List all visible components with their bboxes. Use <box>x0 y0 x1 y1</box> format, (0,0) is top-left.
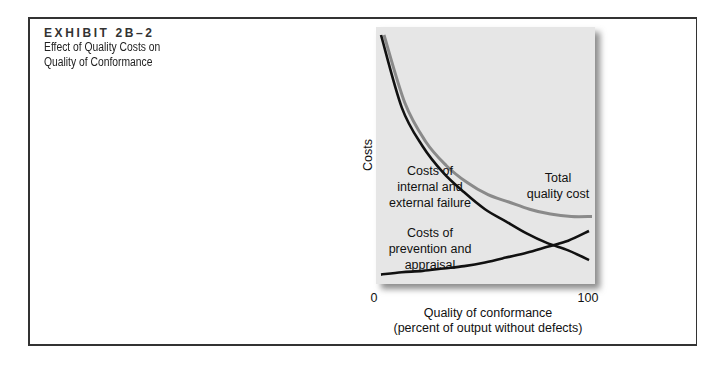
x-tick-100: 100 <box>578 291 599 305</box>
prevention-label-line-3: appraisal <box>405 258 456 272</box>
prevention-label-line-1: Costs of <box>407 226 453 240</box>
x-axis-sublabel: (percent of output without defects) <box>394 321 583 335</box>
failure-label-line-3: external failure <box>389 196 471 210</box>
total-label-line-1: Total <box>545 171 571 185</box>
x-tick-0: 0 <box>371 291 378 305</box>
failure-label-line-2: internal and <box>397 180 462 194</box>
failure-label-line-1: Costs of <box>407 164 453 178</box>
quality-cost-chart: Costs of internal and external failure C… <box>0 0 725 367</box>
x-axis-label: Quality of conformance <box>424 306 553 320</box>
y-axis-label: Costs <box>361 139 375 171</box>
total-label-line-2: quality cost <box>527 187 590 201</box>
prevention-label-line-2: prevention and <box>389 242 472 256</box>
